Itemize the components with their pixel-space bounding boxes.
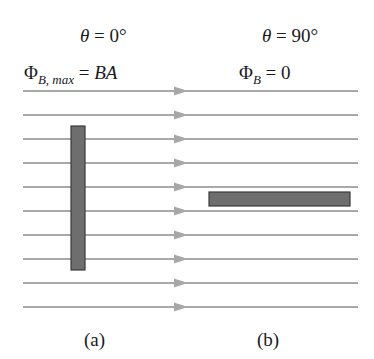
flux-label-a: ΦB, max = BA: [24, 63, 117, 82]
angle-label-b: θ = 90°: [262, 26, 318, 45]
arrow-right-icon: [174, 207, 188, 216]
caption-a: (a): [84, 330, 105, 349]
loop-a-perpendicular: [71, 126, 85, 270]
field-line: [23, 111, 358, 120]
equals-sign: =: [74, 62, 94, 83]
caption-b: (b): [257, 330, 279, 349]
flux-subscript-a: B, max: [38, 72, 74, 87]
field-line: [23, 87, 358, 96]
angle-value-a: = 0°: [89, 25, 126, 46]
field-line: [23, 303, 358, 312]
angle-label-a: θ = 0°: [80, 26, 127, 45]
phi-symbol: Φ: [239, 62, 253, 83]
arrow-right-icon: [174, 159, 188, 168]
magnetic-field-lines: [0, 0, 374, 359]
field-line: [23, 279, 358, 288]
arrow-right-icon: [174, 231, 188, 240]
flux-label-b: ΦB = 0: [239, 63, 291, 82]
angle-value-b: = 90°: [271, 25, 318, 46]
arrow-right-icon: [174, 135, 188, 144]
arrow-right-icon: [174, 111, 188, 120]
arrow-right-icon: [174, 183, 188, 192]
flux-subscript-b: B: [253, 72, 261, 87]
arrow-right-icon: [174, 279, 188, 288]
arrow-right-icon: [174, 303, 188, 312]
theta-symbol: θ: [80, 25, 89, 46]
theta-symbol: θ: [262, 25, 271, 46]
arrow-right-icon: [174, 87, 188, 96]
magnetic-flux-diagram: θ = 0° θ = 90° ΦB, max = BA ΦB = 0 (a) (…: [0, 0, 374, 359]
arrow-right-icon: [174, 255, 188, 264]
flux-value-b: = 0: [261, 62, 291, 83]
loop-b-parallel: [209, 192, 350, 206]
flux-value-a: BA: [94, 62, 117, 83]
phi-symbol: Φ: [24, 62, 38, 83]
